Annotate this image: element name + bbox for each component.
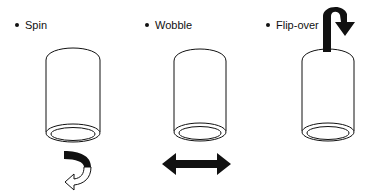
flip-over-hook-arrow-icon: [0, 0, 372, 196]
